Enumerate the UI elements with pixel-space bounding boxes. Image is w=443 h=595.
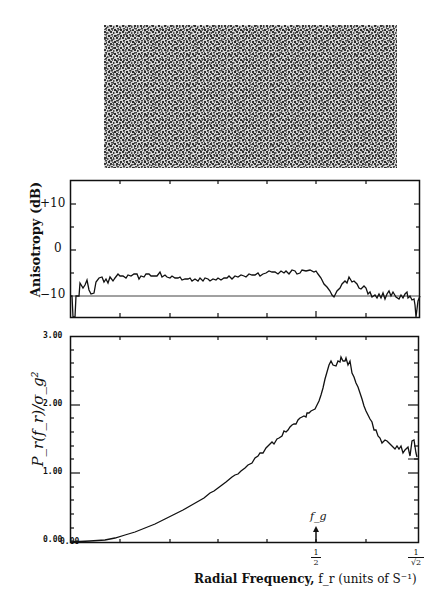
x-axis-label-bold: Radial Frequency, [194,572,315,586]
fg-arrow-icon [313,526,319,542]
anisotropy-panel: Anisotropy (dB) +10 0 −10 [0,170,443,330]
x-tick-one-half: 12 [311,548,321,567]
x-axis-label-units: f_r (units of S⁻¹) [315,572,417,586]
radial-power-spectrum-panel: P_r(f_r)/σ_g² 3.00 2.00 1.00 0.00 0.00 [0,325,443,595]
fg-annotation: f_g [310,510,327,523]
power-spectrum-plot-area [0,325,443,595]
halftone-dot-pattern-image [104,25,397,168]
x-tick-one-over-root-two: 1√2 [408,548,424,567]
x-axis-label: Radial Frequency, f_r (units of S⁻¹) [194,572,417,586]
anisotropy-plot-area [0,170,443,330]
